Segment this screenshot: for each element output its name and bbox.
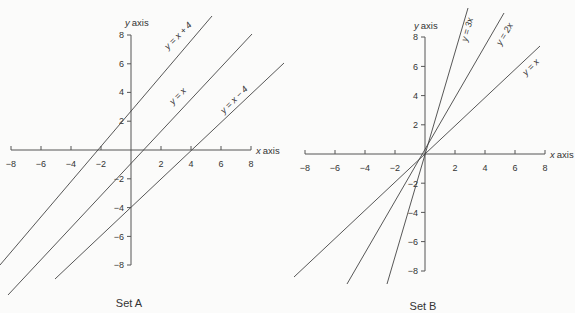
set-a-title: Set A (116, 297, 143, 309)
y-tick-label: 2 (413, 120, 418, 130)
equation-label: y = x + 4 (162, 20, 194, 52)
x-tick-label: 6 (512, 163, 517, 173)
line-y-equals-x-plus-4 (0, 16, 212, 265)
chart-set-a: −8 −6 −4 −2 2 4 6 8 8 6 4 2 −2 −4 −6 −8 … (0, 16, 284, 309)
x-tick-label: −6 (330, 163, 340, 173)
y-tick-label: −6 (408, 237, 418, 247)
y-tick-label: 4 (119, 87, 124, 97)
y-tick-label: −8 (408, 266, 418, 276)
y-tick-label: 8 (119, 30, 124, 40)
chart-canvas: −8 −6 −4 −2 2 4 6 8 8 6 4 2 −2 −4 −6 −8 … (0, 0, 575, 313)
y-tick-label: −6 (114, 232, 124, 242)
x-axis-label: xaxis (255, 145, 280, 156)
y-tick-label: 6 (413, 62, 418, 72)
equation-label: y = x (520, 56, 542, 78)
line-y-equals-x-minus-4 (55, 63, 284, 279)
y-axis-label: yaxis (124, 17, 149, 28)
x-tick-label: 4 (188, 159, 193, 169)
x-tick-label: 4 (482, 163, 487, 173)
x-tick-label: 8 (542, 163, 547, 173)
y-axis-label: yaxis (413, 20, 438, 31)
set-b-title: Set B (410, 300, 437, 312)
x-tick-label: 6 (218, 159, 223, 169)
equation-label: y = 3x (459, 16, 475, 43)
y-tick-label: 6 (119, 59, 124, 69)
y-tick-label: 8 (413, 32, 418, 42)
x-tick-label: −8 (6, 159, 16, 169)
y-tick-label: −4 (114, 203, 124, 213)
y-tick-label: 4 (413, 91, 418, 101)
x-tick-label: 2 (158, 159, 163, 169)
x-tick-label: −2 (390, 163, 400, 173)
x-axis-label: xaxis (549, 149, 574, 160)
x-tick-label: −4 (360, 163, 370, 173)
x-tick-label: −4 (66, 159, 76, 169)
chart-set-b: −8 −6 −4 −2 2 4 6 8 8 6 4 2 −2 −4 −6 −8 … (294, 8, 574, 312)
x-tick-label: 2 (452, 163, 457, 173)
x-tick-label: 8 (248, 159, 253, 169)
x-tick-label: −8 (300, 163, 310, 173)
y-tick-label: −8 (114, 260, 124, 270)
y-tick-label: −2 (114, 174, 124, 184)
x-tick-label: −6 (36, 159, 46, 169)
equation-label: y = x (167, 85, 189, 107)
x-tick-label: −2 (96, 159, 106, 169)
line-y-equals-3x (387, 8, 468, 284)
